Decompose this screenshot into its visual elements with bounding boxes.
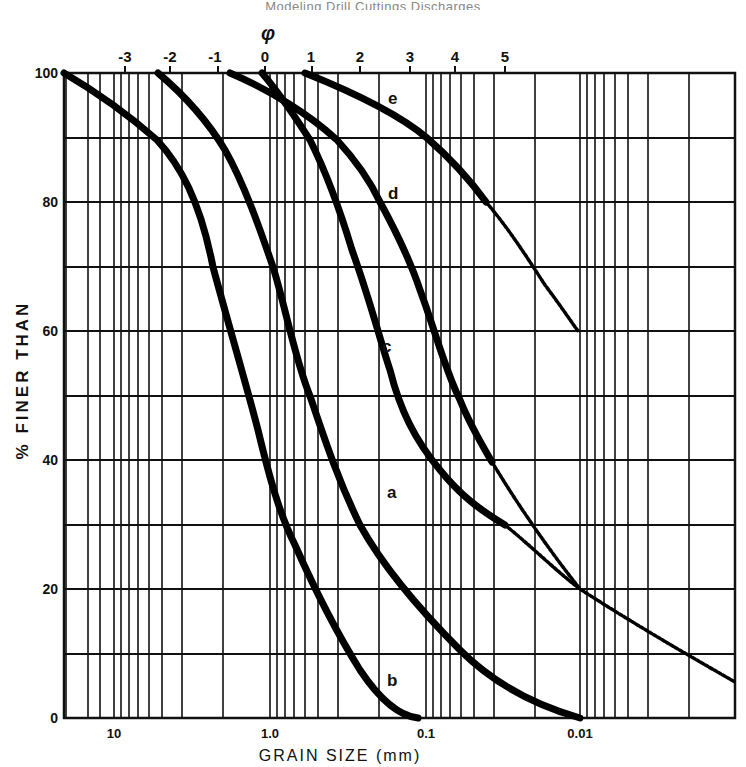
curve-c-dashed <box>505 525 735 682</box>
curve-label-b: b <box>387 671 397 690</box>
x-axis-label: GRAIN SIZE (mm) <box>259 747 421 764</box>
x-tick-0-01: 0.01 <box>567 726 592 741</box>
curve-label-e: e <box>388 89 397 108</box>
grain-size-chart: c a b d e φ -3 -2 -1 0 1 2 3 4 5 100 80 … <box>0 0 746 767</box>
curve-label-d: d <box>388 184 398 203</box>
phi-tick-3: 3 <box>406 48 414 65</box>
y-tick-40: 40 <box>42 452 58 468</box>
y-axis-label: % FINER THAN <box>13 301 32 460</box>
phi-tick-2: 2 <box>356 48 364 65</box>
phi-tick-m1: -1 <box>208 48 221 65</box>
y-tick-100: 100 <box>35 65 59 81</box>
y-tick-0: 0 <box>50 710 58 726</box>
phi-tick-5: 5 <box>501 48 509 65</box>
y-tick-80: 80 <box>42 194 58 210</box>
phi-tick-0: 0 <box>261 48 269 65</box>
x-tick-1: 1.0 <box>261 726 279 741</box>
curve-label-c: c <box>382 337 391 356</box>
phi-tick-1: 1 <box>307 48 315 65</box>
phi-tick-m2: -2 <box>163 48 176 65</box>
phi-axis-label: φ <box>261 22 275 44</box>
curve-label-a: a <box>387 483 397 502</box>
y-tick-20: 20 <box>42 581 58 597</box>
y-tick-60: 60 <box>42 323 58 339</box>
x-tick-10: 10 <box>107 726 121 741</box>
curve-c-solid <box>262 73 505 525</box>
phi-tick-m3: -3 <box>118 48 131 65</box>
phi-tick-4: 4 <box>451 48 460 65</box>
x-tick-0-1: 0.1 <box>417 726 435 741</box>
